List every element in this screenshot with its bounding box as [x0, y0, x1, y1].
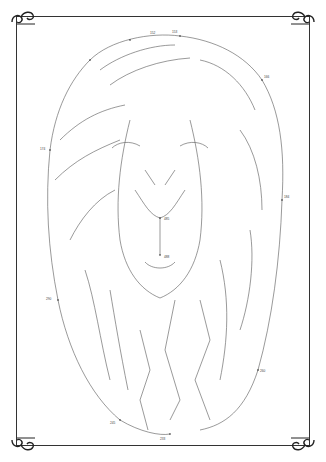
svg-text:233: 233	[160, 437, 166, 441]
svg-text:174: 174	[40, 147, 46, 151]
svg-text:290: 290	[46, 297, 52, 301]
svg-text:245: 245	[110, 421, 116, 425]
svg-text:153: 153	[172, 30, 178, 34]
svg-text:488: 488	[164, 255, 170, 259]
svg-text:166: 166	[264, 75, 270, 79]
lion-dot-to-dot-drawing: 152153166 184260174 290245485 488233	[0, 0, 326, 462]
svg-text:184: 184	[284, 195, 290, 199]
svg-text:485: 485	[164, 217, 170, 221]
svg-text:152: 152	[150, 31, 156, 35]
svg-text:260: 260	[260, 369, 266, 373]
